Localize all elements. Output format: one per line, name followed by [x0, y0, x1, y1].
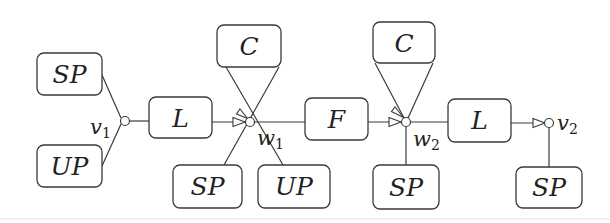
box-c-w1: C: [217, 25, 281, 67]
box-label: SP: [191, 172, 226, 201]
box-sp-v2: SP: [516, 167, 582, 208]
box-label: SP: [389, 173, 424, 202]
box-up-v1: UP: [37, 145, 102, 187]
edge-sp-to-v1: [102, 75, 121, 118]
box-label: SP: [53, 60, 88, 89]
edge-c-right-to-w2: [408, 63, 433, 118]
box-label: C: [394, 29, 413, 58]
node-v2: [545, 119, 554, 128]
node-w1: [246, 118, 255, 127]
box-label: L: [470, 106, 488, 135]
box-label: UP: [275, 172, 314, 201]
arrowhead-c-w1: [237, 109, 248, 119]
node-label-w2: w2: [413, 127, 440, 153]
arrowhead-c-w2: [392, 107, 404, 118]
box-label: SP: [532, 173, 567, 202]
edge-c-right-through-w1-to-sp: [224, 67, 279, 165]
box-sp-w1: SP: [173, 165, 242, 208]
box-label: L: [171, 104, 189, 133]
box-up-w1: UP: [258, 165, 330, 208]
node-w2: [402, 118, 411, 127]
box-label: F: [327, 105, 347, 134]
edge-c-left-to-w2: [375, 63, 404, 118]
node-label-v2: v2: [557, 111, 578, 137]
arrowhead-l-w1: [233, 118, 245, 127]
box-c-w2: C: [373, 22, 435, 63]
box-label: C: [239, 32, 258, 61]
node-label-w1: w1: [257, 126, 284, 152]
arrowhead-l-v2: [533, 119, 545, 128]
box-sp-v1: SP: [37, 53, 102, 95]
box-sp-w2: SP: [373, 165, 439, 209]
node-v1: [121, 117, 130, 126]
box-f: F: [305, 98, 368, 140]
box-label: UP: [51, 152, 90, 181]
node-label-v1: v1: [90, 115, 111, 141]
box-l-1: L: [149, 97, 212, 138]
arrowhead-f-w2: [389, 118, 401, 127]
box-l-2: L: [448, 99, 511, 142]
flow-diagram: SP UP L C SP UP F C SP L SP: [0, 0, 610, 223]
